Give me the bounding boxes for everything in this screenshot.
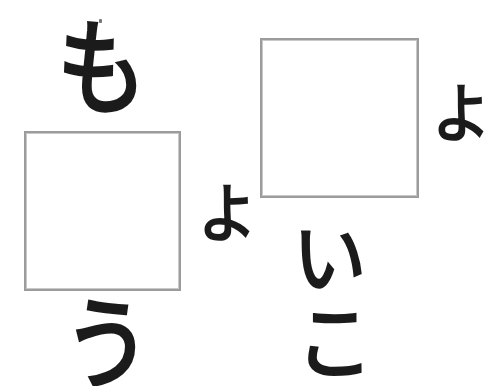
hiragana-yo-left-glyph: よ bbox=[198, 182, 257, 246]
hiragana-u-glyph: う bbox=[63, 296, 151, 386]
hiragana-yo-right-glyph: よ bbox=[432, 82, 490, 146]
hiragana-mo-glyph: も bbox=[57, 18, 146, 122]
scan-artifact-speck bbox=[99, 19, 102, 23]
practice-box-left[interactable] bbox=[24, 131, 181, 291]
practice-box-right[interactable] bbox=[260, 38, 419, 198]
hiragana-i-glyph: い bbox=[293, 221, 366, 299]
worksheet-page: も よ よ う い こ bbox=[0, 0, 490, 386]
hiragana-ko-glyph: こ bbox=[296, 303, 373, 385]
box-inner-edge bbox=[262, 40, 417, 196]
box-inner-edge bbox=[26, 133, 179, 289]
